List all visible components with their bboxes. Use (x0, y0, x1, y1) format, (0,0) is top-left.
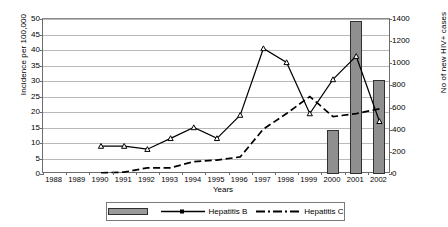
data-point-marker (168, 136, 173, 141)
legend-label-hepatitis-c: Hepatitis C (304, 207, 343, 216)
chart-legend[interactable]: Hepatitis B Hepatitis C (106, 202, 345, 221)
y-axis-left-tick-label: 45 (31, 31, 43, 39)
y-axis-left-tick-label: 50 (31, 15, 43, 23)
y-axis-right-tick-label: 1400 (389, 15, 410, 23)
y-axis-left-tick-label: 10 (31, 139, 43, 147)
data-point-marker (261, 46, 266, 51)
x-axis-title: Years (0, 185, 446, 194)
x-axis-tickmark (275, 172, 276, 175)
data-point-marker (145, 147, 150, 152)
line-hepatitis-b (101, 48, 379, 149)
y-axis-left-tick-label: 35 (31, 62, 43, 70)
x-axis-tickmark (252, 172, 253, 175)
legend-swatch-hiv-cases (108, 208, 148, 215)
y-axis-left-tick-label: 5 (36, 155, 43, 163)
y-axis-right-tick-label: 400 (389, 126, 405, 134)
y-axis-right-tick-label: 800 (389, 81, 405, 89)
x-axis-tickmark (391, 172, 392, 175)
x-axis-tickmark (113, 172, 114, 175)
x-axis-tick-label: 2002 (365, 176, 392, 184)
x-axis-tickmark (321, 172, 322, 175)
y-axis-right-tick-label: 1000 (389, 59, 410, 67)
y-axis-left-tick-label: 30 (31, 77, 43, 85)
line-hepatitis-c (101, 97, 379, 173)
y-axis-left-tick-label: 20 (31, 108, 43, 116)
data-point-marker (98, 144, 103, 149)
legend-item-hiv-cases[interactable] (108, 208, 152, 215)
y-axis-left-tick-label: 40 (31, 46, 43, 54)
y-axis-right-tick-label: 1200 (389, 37, 410, 45)
legend-line-hepatitis-b (161, 207, 205, 216)
x-axis-tickmark (345, 172, 346, 175)
y-axis-left-tick-label: 15 (31, 124, 43, 132)
x-axis-tickmark (89, 172, 90, 175)
x-axis-tickmark (298, 172, 299, 175)
y-axis-right-title: No of new HIV+ cases (439, 0, 448, 128)
data-point-marker (284, 60, 289, 65)
x-axis-tickmark (159, 172, 160, 175)
data-point-marker (238, 113, 243, 118)
markers-hepatitis-b (98, 46, 382, 152)
x-axis-tickmark (182, 172, 183, 175)
plot-area: 05101520253035404550 0200400600800100012… (42, 18, 390, 173)
data-point-marker (354, 54, 359, 59)
y-axis-left-tick-label: 25 (31, 93, 43, 101)
x-axis-tickmark (136, 172, 137, 175)
x-axis-tickmark (229, 172, 230, 175)
line-series-layer (43, 19, 391, 174)
y-axis-right-tick-label: 600 (389, 104, 405, 112)
data-point-marker (191, 125, 196, 130)
legend-label-hepatitis-b: Hepatitis B (209, 207, 248, 216)
y-axis-left-title: Incidence per 100,000 (19, 0, 28, 130)
x-axis-tickmark (66, 172, 67, 175)
data-point-marker (122, 144, 127, 149)
x-axis-tickmark (43, 172, 44, 175)
y-axis-right-tick-label: 200 (389, 148, 405, 156)
legend-item-hepatitis-b[interactable]: Hepatitis B (161, 207, 248, 216)
x-axis-tickmark (368, 172, 369, 175)
data-point-marker (377, 119, 382, 124)
legend-item-hepatitis-c[interactable]: Hepatitis C (256, 207, 343, 216)
x-axis-tickmark (205, 172, 206, 175)
legend-line-hepatitis-c (256, 207, 300, 216)
